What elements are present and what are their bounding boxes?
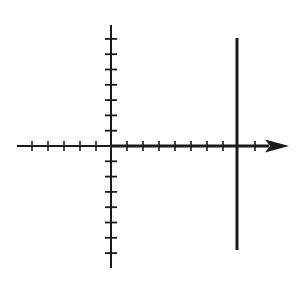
coordinate-diagram xyxy=(0,0,300,292)
axes-canvas xyxy=(0,0,300,292)
